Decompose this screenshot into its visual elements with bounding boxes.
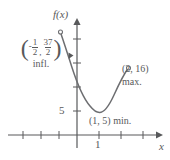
y-tick-label-5: 5 (59, 105, 65, 116)
inflection-x-numerator: 1 (32, 38, 39, 47)
maximum-point-label: (2, 16) (122, 63, 149, 76)
calculus-graph-figure: f(x) x 5 1 ( - 1 2 , 37 2 ) infl. (2, 16… (0, 0, 170, 160)
inflection-y-numerator: 37 (42, 38, 53, 47)
maximum-annotation: (2, 16) max. (122, 63, 149, 88)
curve-left-endpoint-open-dot (59, 30, 63, 34)
inflection-x-denominator: 2 (32, 47, 39, 57)
y-axis-label: f(x) (53, 9, 68, 20)
open-paren: ( (21, 39, 29, 58)
x-axis-arrowhead (156, 131, 163, 138)
inflection-comma: , (39, 48, 41, 58)
inflection-y-fraction: 37 2 (42, 38, 53, 58)
maximum-caption: max. (122, 76, 149, 89)
minimum-annotation: (1, 5) min. (89, 116, 131, 126)
inflection-annotation: ( - 1 2 , 37 2 ) infl. (12, 38, 70, 69)
inflection-coordinate-pair: ( - 1 2 , 37 2 ) (12, 38, 70, 58)
inflection-x-fraction: 1 2 (32, 38, 39, 58)
x-axis-label: x (159, 141, 164, 152)
x-tick-label-1: 1 (95, 139, 101, 150)
close-paren: ) (53, 39, 61, 58)
inflection-x-sign: - (29, 42, 32, 51)
inflection-y-denominator: 2 (45, 47, 52, 57)
function-curve (61, 33, 129, 113)
y-axis-arrowhead (73, 18, 80, 25)
